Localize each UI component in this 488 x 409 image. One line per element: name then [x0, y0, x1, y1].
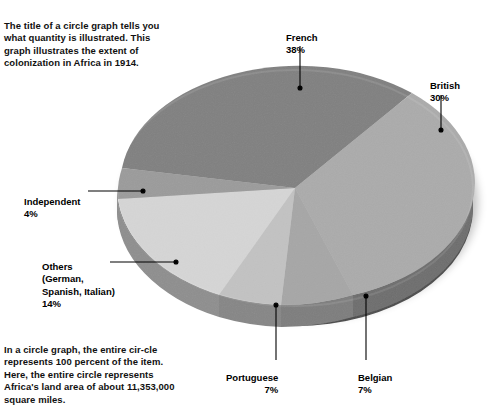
slice-label-french: French 38% — [286, 20, 318, 69]
slice-label-others-name: Others (German, Spanish, Italian) — [42, 261, 115, 296]
leader-dot-belgian — [364, 294, 368, 298]
slice-label-portuguese-name: Portuguese — [226, 372, 278, 383]
slice-label-portuguese-value: 7% — [226, 384, 278, 396]
leader-dot-portuguese — [274, 303, 278, 307]
slice-label-independent-value: 4% — [24, 208, 80, 220]
slice-label-belgian-value: 7% — [358, 384, 392, 396]
slice-label-others: Others (German, Spanish, Italian) 14% — [42, 249, 115, 322]
slice-label-independent: Independent 4% — [24, 184, 80, 233]
note-top-text: The title of a circle graph tells you wh… — [4, 20, 176, 70]
slice-label-british-name: British — [430, 80, 460, 91]
slice-label-british-value: 30% — [430, 92, 460, 104]
slice-label-portuguese: Portuguese 7% — [226, 360, 278, 409]
slice-label-others-value: 14% — [42, 298, 115, 310]
slice-label-belgian: Belgian 7% — [358, 360, 392, 409]
slice-label-french-value: 38% — [286, 44, 318, 56]
slice-label-french-name: French — [286, 32, 318, 43]
leader-dot-british — [439, 128, 443, 132]
slice-label-british: British 30% — [430, 68, 460, 117]
leader-dot-french — [298, 86, 302, 90]
slice-label-independent-name: Independent — [24, 196, 80, 207]
note-bottom-text: In a circle graph, the entire cir-cle re… — [4, 344, 180, 406]
slice-label-belgian-name: Belgian — [358, 372, 392, 383]
leader-dot-others — [174, 260, 178, 264]
leader-dot-independent — [141, 189, 145, 193]
